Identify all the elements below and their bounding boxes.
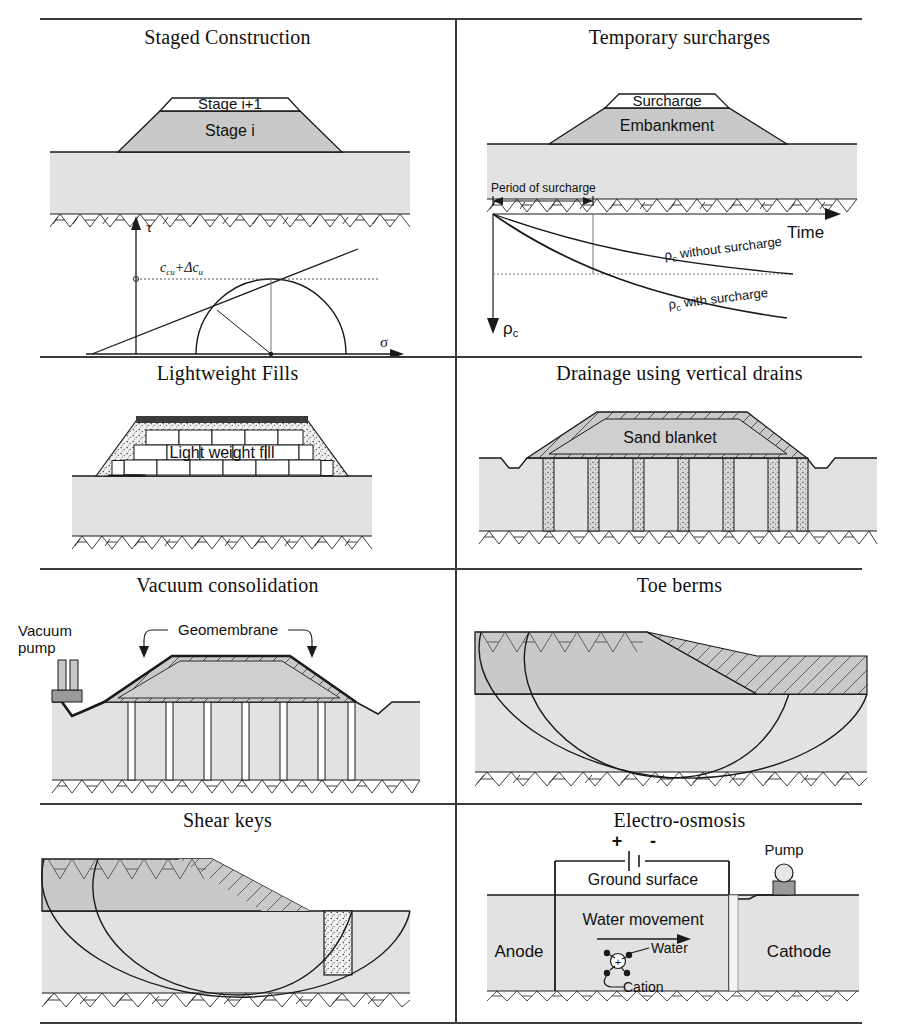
bedrock-hatch: [475, 772, 867, 786]
panel-vertical-drains: Drainage using vertical drains: [457, 358, 902, 568]
tau-axis-arrow: [131, 216, 141, 230]
bedrock-hatch: [487, 991, 859, 1001]
pump-label: Pump: [764, 841, 803, 858]
geomembrane-label: Geomembrane: [178, 621, 278, 638]
soft-ground: [475, 694, 867, 772]
failure-envelope: [92, 249, 358, 354]
rule-bottom: [40, 1022, 862, 1024]
chart-axes: [86, 224, 396, 354]
cation-charge-label: +: [615, 956, 621, 968]
cathode-well: [729, 895, 738, 991]
lightweight-fill-label: Light weight fill: [170, 444, 275, 461]
lightweight-blocks-bottom: [108, 475, 141, 476]
geomembrane-leader-right: [288, 630, 312, 648]
panel-toe-berms: Toe berms: [457, 570, 902, 803]
settlement-time-chart: Period of surcharge Time ρc: [457, 170, 902, 350]
cathode-label: Cathode: [767, 942, 831, 961]
bedrock-hatch: [72, 536, 372, 549]
battery-symbol: [629, 851, 639, 871]
sand-blanket-label: Sand blanket: [623, 429, 717, 446]
sigma-axis-arrow: [390, 349, 404, 356]
sigma-axis-label: σ: [380, 334, 388, 350]
panel-title: Toe berms: [457, 574, 902, 597]
tangent-radius: [217, 310, 271, 354]
settlement-axis-arrow: [487, 318, 499, 334]
panel-title: Electro-osmosis: [457, 809, 902, 832]
cation-label: Cation: [623, 979, 663, 995]
bedrock-hatch: [52, 780, 420, 793]
time-axis-arrow: [825, 208, 841, 220]
period-label: Period of surcharge: [491, 181, 596, 195]
series-label-without: ρc without surcharge: [664, 234, 783, 265]
vacuum-pump-label-2: pump: [18, 639, 56, 656]
panel-title: Staged Construction: [0, 26, 455, 49]
panel-shear-keys: Shear keys: [0, 805, 455, 1022]
stage-upper-label: Stage i+1: [198, 95, 262, 112]
ground-profile: [52, 702, 420, 780]
figure-sheet: Staged Construction: [0, 0, 902, 1036]
panel-electro-osmosis: Electro-osmosis: [457, 805, 902, 1022]
panel-vacuum-consolidation: Vacuum consolidation: [0, 570, 455, 803]
anode-label: Anode: [494, 942, 543, 961]
polarity-plus-label: +: [612, 831, 623, 851]
pavement-cap: [136, 416, 308, 423]
panel-title: Vacuum consolidation: [0, 574, 455, 597]
soft-ground: [42, 911, 410, 993]
water-label: Water: [651, 940, 688, 956]
surcharge-label: Surcharge: [632, 92, 701, 109]
tau-axis-label: τ: [146, 219, 152, 235]
panel-temporary-surcharges: Temporary surcharges: [457, 20, 902, 356]
panel-lightweight-fills: Lightweight Fills: [0, 358, 455, 568]
embankment-label: Embankment: [620, 117, 715, 134]
panel-title: Shear keys: [0, 809, 455, 832]
geomembrane-leader-left: [144, 630, 168, 648]
polarity-minus-label: -: [650, 831, 656, 851]
ground-surface-label: Ground surface: [588, 871, 698, 888]
stage-lower-label: Stage i: [205, 122, 255, 139]
settlement-axis-label: ρc: [503, 319, 519, 339]
series-label-with: ρc with surcharge: [668, 285, 769, 314]
water-movement-label: Water movement: [582, 911, 704, 928]
bedrock-hatch: [479, 531, 877, 544]
pump-icon: [738, 864, 795, 899]
vacuum-pump-icon: [52, 660, 82, 702]
period-dimension: [493, 196, 593, 206]
panel-staged-construction: Staged Construction: [0, 20, 455, 356]
panel-title: Drainage using vertical drains: [457, 362, 902, 385]
panel-title: Temporary surcharges: [457, 26, 902, 49]
time-axis-label: Time: [787, 223, 824, 242]
vacuum-pump-label-1: Vacuum: [18, 622, 72, 639]
mohr-circle-chart: τ σ ccu+Δcu: [0, 202, 455, 356]
panel-title: Lightweight Fills: [0, 362, 455, 385]
cohesion-annotation: ccu+Δcu: [160, 260, 204, 277]
